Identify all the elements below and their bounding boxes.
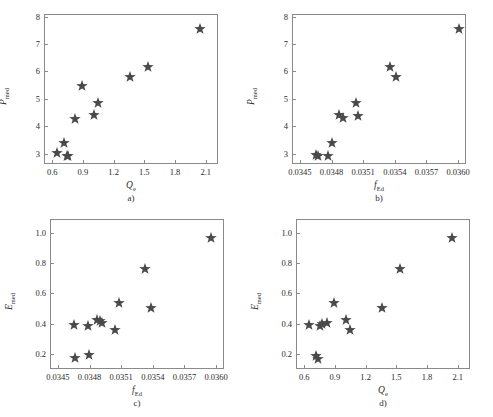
y-tick-c-0 <box>50 354 54 355</box>
x-tick-a-2 <box>114 160 115 164</box>
y-axis-label-symbol-d: E <box>250 304 260 310</box>
x-tick-b-5 <box>458 160 459 164</box>
x-tick-d-1 <box>335 365 336 369</box>
y-tick-a-1 <box>44 126 48 127</box>
y-tick-label-d-0: 0.2 <box>262 349 292 359</box>
y-axis-label-symbol-a: P <box>0 99 8 105</box>
y-tick-label-d-3: 0.8 <box>262 258 292 268</box>
y-tick-c-2 <box>50 293 54 294</box>
y-tick-label-c-3: 0.8 <box>16 258 46 268</box>
y-tick-d-3 <box>296 263 300 264</box>
plot-area-b <box>292 14 466 164</box>
x-tick-d-4 <box>427 365 428 369</box>
x-tick-c-3 <box>153 365 154 369</box>
y-tick-label-a-2: 5 <box>10 94 40 104</box>
x-tick-c-0 <box>58 365 59 369</box>
plot-area-d <box>296 219 470 369</box>
x-axis-label-subscript-d: e <box>385 390 388 397</box>
x-axis-label-subscript-b: Ed <box>377 185 384 192</box>
panel-caption-b: b) <box>349 193 409 203</box>
y-tick-label-a-0: 3 <box>10 149 40 159</box>
x-tick-c-2 <box>121 365 122 369</box>
x-tick-b-3 <box>395 160 396 164</box>
x-tick-c-5 <box>216 365 217 369</box>
plot-area-c <box>50 219 224 369</box>
y-tick-label-b-2: 5 <box>258 94 288 104</box>
y-axis-label-subscript-d: med <box>255 293 262 304</box>
y-axis-label-subscript-b: med <box>251 88 258 99</box>
y-tick-b-1 <box>292 126 296 127</box>
x-axis-label-d: Qe <box>343 385 423 397</box>
y-tick-label-c-0: 0.2 <box>16 349 46 359</box>
x-tick-b-4 <box>426 160 427 164</box>
y-tick-c-4 <box>50 233 54 234</box>
y-axis-label-symbol-c: E <box>4 304 14 310</box>
y-tick-label-d-4: 1.0 <box>262 228 292 238</box>
plot-area-a <box>44 14 218 164</box>
y-tick-a-3 <box>44 71 48 72</box>
x-tick-b-0 <box>300 160 301 164</box>
y-axis-label-a: Pmed <box>0 88 10 105</box>
y-tick-label-b-3: 6 <box>258 66 288 76</box>
x-tick-a-4 <box>175 160 176 164</box>
y-tick-b-0 <box>292 154 296 155</box>
y-tick-c-3 <box>50 263 54 264</box>
y-tick-label-b-4: 7 <box>258 39 288 49</box>
y-axis-label-d: Emed <box>250 293 262 310</box>
x-tick-a-0 <box>52 160 53 164</box>
x-tick-a-1 <box>83 160 84 164</box>
x-tick-label-b-5: 0.0360 <box>434 167 482 177</box>
x-tick-d-2 <box>366 365 367 369</box>
x-axis-label-a: Qe <box>91 180 171 192</box>
x-tick-a-3 <box>144 160 145 164</box>
x-tick-label-c-5: 0.0360 <box>192 372 240 382</box>
y-tick-label-c-4: 1.0 <box>16 228 46 238</box>
y-axis-label-b: Pmed <box>246 88 258 105</box>
x-tick-b-2 <box>363 160 364 164</box>
y-tick-label-b-0: 3 <box>258 149 288 159</box>
x-tick-d-0 <box>304 365 305 369</box>
y-axis-label-subscript-a: med <box>3 88 10 99</box>
y-tick-a-0 <box>44 154 48 155</box>
y-tick-label-a-3: 6 <box>10 66 40 76</box>
panel-caption-a: a) <box>101 193 161 203</box>
y-tick-a-2 <box>44 99 48 100</box>
y-tick-label-d-2: 0.6 <box>262 288 292 298</box>
x-tick-a-5 <box>206 160 207 164</box>
y-axis-label-subscript-c: med <box>9 293 16 304</box>
panel-caption-c: c) <box>107 398 167 408</box>
y-tick-b-3 <box>292 71 296 72</box>
y-tick-d-4 <box>296 233 300 234</box>
x-axis-label-subscript-a: e <box>133 185 136 192</box>
x-tick-label-d-5: 2.1 <box>434 372 482 382</box>
x-tick-c-4 <box>184 365 185 369</box>
y-tick-label-a-5: 8 <box>10 12 40 22</box>
y-tick-b-4 <box>292 44 296 45</box>
panel-caption-d: d) <box>353 398 413 408</box>
y-tick-d-1 <box>296 324 300 325</box>
y-axis-label-c: Emed <box>4 293 16 310</box>
y-axis-label-symbol-b: P <box>246 99 256 105</box>
y-tick-label-d-1: 0.4 <box>262 319 292 329</box>
y-tick-a-4 <box>44 44 48 45</box>
x-tick-c-1 <box>90 365 91 369</box>
x-axis-label-b: fEd <box>339 180 419 192</box>
y-tick-label-c-1: 0.4 <box>16 319 46 329</box>
x-tick-label-a-5: 2.1 <box>182 167 230 177</box>
y-tick-label-a-4: 7 <box>10 39 40 49</box>
x-tick-d-5 <box>458 365 459 369</box>
y-tick-d-0 <box>296 354 300 355</box>
x-axis-label-symbol-a: Q <box>126 180 133 190</box>
y-tick-label-b-5: 8 <box>258 12 288 22</box>
x-axis-label-symbol-d: Q <box>378 385 385 395</box>
x-axis-label-subscript-c: Ed <box>135 390 142 397</box>
y-tick-b-2 <box>292 99 296 100</box>
y-tick-label-a-1: 4 <box>10 121 40 131</box>
y-tick-d-2 <box>296 293 300 294</box>
y-tick-label-c-2: 0.6 <box>16 288 46 298</box>
y-tick-b-5 <box>292 17 296 18</box>
y-tick-c-1 <box>50 324 54 325</box>
x-tick-d-3 <box>396 365 397 369</box>
x-axis-label-c: fEd <box>97 385 177 397</box>
y-tick-a-5 <box>44 17 48 18</box>
